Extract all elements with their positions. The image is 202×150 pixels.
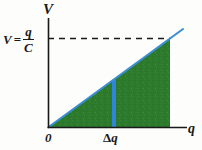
- plot-canvas: [0, 0, 202, 150]
- delta-q-variable: q: [111, 130, 118, 145]
- fraction-q-over-c: q C: [23, 25, 34, 54]
- fraction-numerator: q: [24, 25, 33, 39]
- delta-symbol: Δ: [103, 130, 111, 145]
- equals-sign: =: [14, 33, 21, 46]
- delta-q-label: Δq: [103, 131, 118, 144]
- equation-left-side: V: [3, 33, 12, 46]
- q-axis-label: q: [188, 122, 195, 136]
- delta-q-strip: [112, 80, 116, 127]
- origin-label: 0: [45, 131, 52, 144]
- equation-v-equals-q-over-c: V = q C: [3, 25, 34, 54]
- fraction-denominator: C: [23, 40, 34, 54]
- v-axis-label: V: [43, 2, 53, 17]
- capacitor-energy-diagram: V q 0 Δq V = q C: [0, 0, 202, 150]
